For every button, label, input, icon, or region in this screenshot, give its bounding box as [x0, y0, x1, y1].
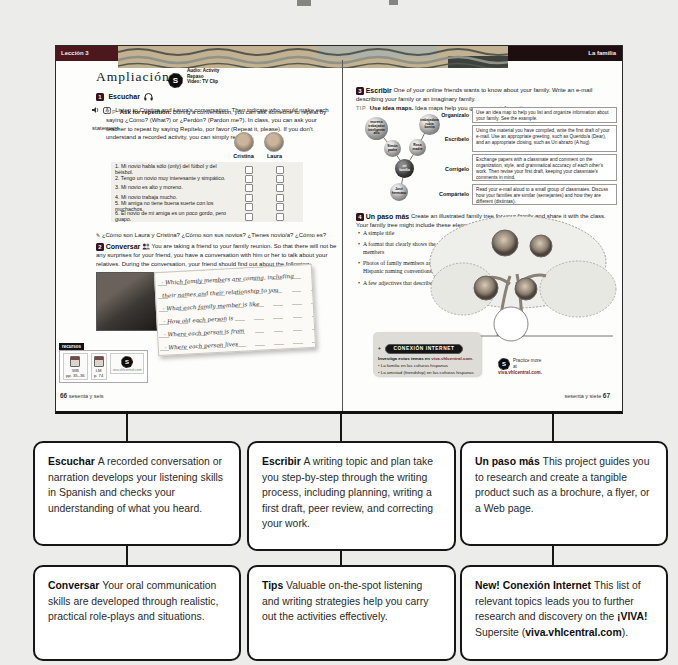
- connector-line: [340, 414, 342, 442]
- column-header-laura: Laura: [259, 153, 290, 159]
- speaker-icon: [92, 107, 99, 113]
- connector-line: [340, 549, 342, 565]
- textbook-spread: Lección 3 La familia Ampliación S Audio:…: [55, 45, 623, 414]
- lesson-label: Lección 3: [61, 46, 89, 61]
- connector-line: [552, 545, 554, 565]
- column-header-cristina: Cristina: [228, 153, 259, 159]
- supersite-resources: Audio: Activity Repaso Video: TV Clip: [187, 68, 219, 85]
- step-box: Read your e-mail aloud to a small group …: [472, 184, 617, 205]
- conexion-title: CONEXIÓN INTERNET: [385, 344, 462, 354]
- partner-chat-icon: [142, 243, 150, 250]
- practice-more: S Practice more at viva.vhlcentral.com.: [498, 358, 542, 376]
- labmanual-icon: LM p. 74: [91, 353, 107, 380]
- callout-escuchar: Escuchar A recorded conversation or narr…: [33, 441, 241, 546]
- callout-un-paso-mas: Un paso más This project guides you to r…: [460, 441, 668, 546]
- left-page-number: 66 sesenta y seis: [60, 392, 104, 399]
- print-registration-mark: [389, 0, 398, 5]
- cristina-photo: [234, 132, 254, 152]
- idea-bubble: José hermano: [390, 183, 408, 201]
- pencil-icon: ✎: [96, 232, 100, 238]
- step-label: Organízalo: [417, 112, 469, 118]
- connector-line: [126, 414, 128, 442]
- activity3: 3 Escribir One of your online friends wa…: [356, 86, 614, 104]
- table-row: 6. El novio de mi amiga es un poco gordo…: [115, 211, 303, 220]
- mouse-icon: ⌖: [378, 345, 381, 351]
- right-page-number: sesenta y siete 67: [565, 392, 610, 399]
- step-label: Compártelo: [417, 191, 469, 197]
- supersite-icon: S: [498, 358, 510, 370]
- conexion-url: viva.vhlcentral.com.: [431, 356, 473, 361]
- print-registration-mark: [297, 0, 311, 6]
- callout-escribir: Escribir A writing topic and plan take y…: [247, 441, 456, 551]
- idea-bubble: Simón padre: [384, 140, 401, 157]
- callout-conexion-internet: New! Conexión Internet This list of rele…: [460, 565, 668, 661]
- step-label: Corrígelo: [417, 166, 469, 172]
- checkbox: [245, 213, 253, 221]
- activity1-tip: TIP Ask for repetition. During a convers…: [106, 108, 338, 141]
- supersite-resource: S viva.vhlcentral.com: [110, 353, 145, 374]
- statement-table: 1. Mi novio habla sólo (only) del fútbol…: [111, 162, 303, 222]
- laura-photo: [264, 132, 284, 152]
- conexion-internet-box: ⌖ CONEXIÓN INTERNET Investiga estos tema…: [373, 332, 481, 376]
- follow-up-question: ✎ ¿Cómo son Laura y Cristina? ¿Cómo son …: [96, 231, 341, 239]
- connector-line: [552, 414, 554, 442]
- idea-bubble-center: mi familia: [395, 159, 414, 178]
- checkbox: [276, 213, 284, 221]
- recursos-box: recursos WB pp. 35–36 LM p. 74 S viva.vh…: [59, 343, 148, 383]
- idea-bubble: moreno trabajador inteligente alto: [365, 117, 388, 140]
- practice-url: viva.vhlcentral.com.: [498, 370, 542, 376]
- notepad-list: · Which family members are coming, inclu…: [154, 264, 316, 356]
- step-box: Exchange papers with a classmate and com…: [472, 154, 617, 181]
- section-title: Ampliación: [96, 67, 170, 85]
- connector-line: [126, 545, 128, 565]
- workbook-icon: WB pp. 35–36: [63, 353, 88, 380]
- theme-label: La familia: [588, 46, 616, 61]
- callout-conversar: Conversar Your oral communication skills…: [33, 565, 241, 661]
- supersite-icon: S: [168, 69, 183, 88]
- step-label: Escríbelo: [417, 136, 469, 142]
- step-box: Use an idea map to help you list and org…: [472, 107, 617, 123]
- callout-tips: Tips Valuable on-the-spot listening and …: [247, 565, 456, 661]
- wave-banner-art: [118, 46, 508, 68]
- page-canvas: Lección 3 La familia Ampliación S Audio:…: [0, 0, 678, 665]
- step-box: Using the material you have compiled, wr…: [472, 125, 617, 152]
